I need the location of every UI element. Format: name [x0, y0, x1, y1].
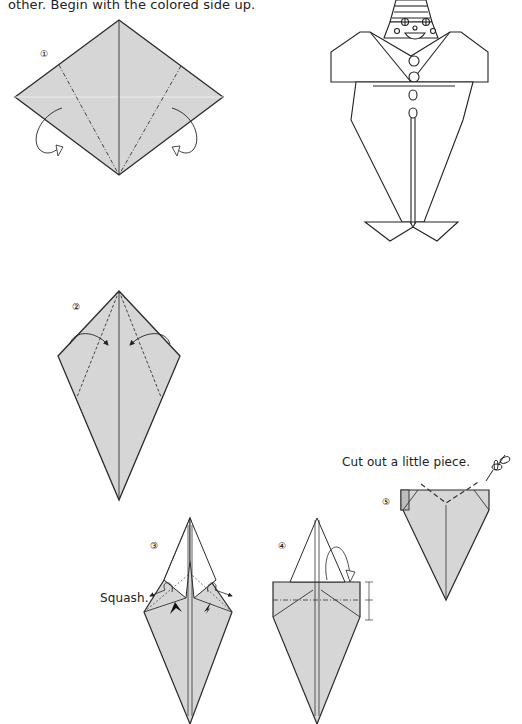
scissors-icon	[486, 455, 511, 481]
diagram-canvas: ① ② ③	[0, 0, 522, 724]
step-3-number: ③	[150, 541, 158, 551]
clown-figure	[331, 0, 488, 241]
step-2-diagram: ②	[58, 291, 180, 500]
step-1-diagram: ①	[15, 20, 223, 175]
step-5-diagram: ⑤	[382, 455, 511, 600]
step-3-diagram: ③	[144, 518, 232, 724]
step-5-number: ⑤	[382, 497, 390, 507]
step-4-diagram: ④	[273, 518, 373, 724]
step-1-number: ①	[40, 49, 48, 59]
step-2-number: ②	[72, 302, 80, 312]
step-4-number: ④	[278, 541, 286, 551]
